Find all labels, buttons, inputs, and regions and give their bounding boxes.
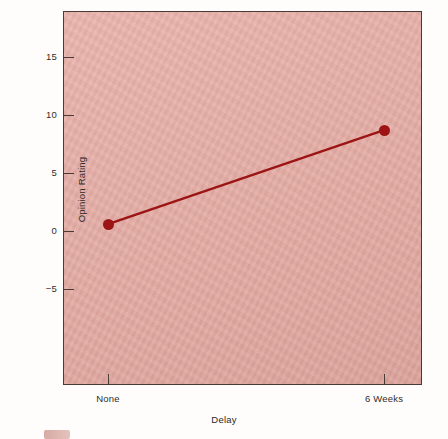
y-tick-15 <box>63 57 74 58</box>
y-tick-minus-5 <box>63 289 74 290</box>
y-tick-5 <box>63 173 74 174</box>
y-tick-label-0: 0 <box>25 225 57 236</box>
y-tick-0 <box>63 231 74 232</box>
y-tick-label-10: 10 <box>25 109 57 120</box>
plot-area: Opinion Rating <box>63 11 422 385</box>
y-tick-label-5: 5 <box>25 167 57 178</box>
y-tick-label-minus-5: −5 <box>25 283 57 294</box>
x-tick-label-6-weeks: 6 Weeks <box>339 393 429 404</box>
x-tick-6-weeks <box>384 374 385 385</box>
y-tick-10 <box>63 115 74 116</box>
chart-figure: Opinion Rating 15 10 5 0 −5 None 6 Weeks… <box>0 0 448 439</box>
x-tick-label-none: None <box>63 393 153 404</box>
plot-background-texture <box>64 12 421 384</box>
caption-artifact <box>44 430 70 439</box>
y-axis-title: Opinion Rating <box>76 130 87 250</box>
x-axis-title: Delay <box>0 414 448 425</box>
x-tick-none <box>108 374 109 385</box>
y-tick-label-15: 15 <box>25 51 57 62</box>
